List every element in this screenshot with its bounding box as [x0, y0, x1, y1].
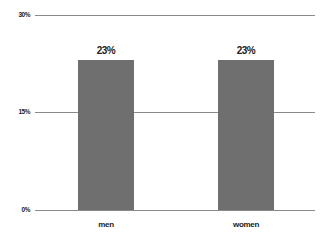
gridline-0	[35, 210, 315, 211]
bar-value-label-men: 23%	[78, 45, 134, 56]
y-tick-0: 0%	[6, 205, 30, 214]
x-tick-women: women	[206, 220, 286, 229]
y-tick-15: 15%	[6, 107, 30, 116]
y-tick-30: 30%	[6, 10, 30, 19]
gridline-30	[35, 15, 315, 16]
bar-chart: 30% 15% 0% 23% 23% men women	[0, 0, 330, 239]
bar-men	[78, 60, 134, 210]
x-tick-men: men	[66, 220, 146, 229]
bar-value-label-women: 23%	[218, 45, 274, 56]
bar-women	[218, 60, 274, 210]
